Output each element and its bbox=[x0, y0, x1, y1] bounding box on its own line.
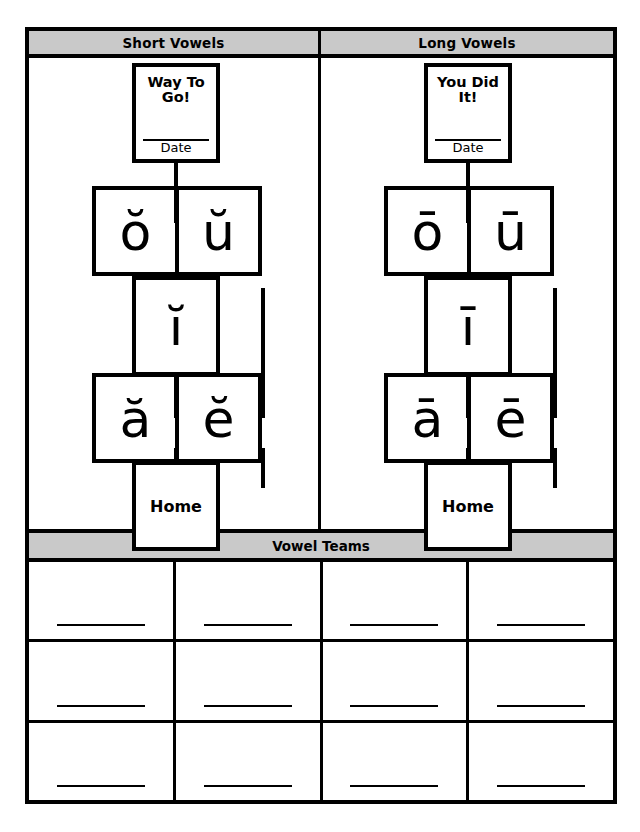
base-short-a: ă bbox=[92, 373, 179, 463]
glyph-short-e: ĕ bbox=[203, 391, 235, 445]
base-short-u: ŭ bbox=[175, 186, 262, 276]
award-title-short-vowels: Way To Go! bbox=[136, 75, 216, 105]
vowel-team-cell[interactable] bbox=[176, 723, 323, 800]
table-row bbox=[29, 642, 613, 722]
third-base-long-i: ī bbox=[424, 276, 512, 376]
award-date-label-short: Date bbox=[160, 141, 191, 155]
panel-header-short-vowels: Short Vowels bbox=[29, 31, 318, 58]
vowel-team-cell[interactable] bbox=[323, 642, 470, 719]
award-date-label-long: Date bbox=[452, 141, 483, 155]
vowel-team-cell[interactable] bbox=[323, 562, 470, 639]
write-line bbox=[350, 624, 438, 626]
diamond-long-vowels: You Did It! Date ō ū ī bbox=[321, 58, 613, 529]
glyph-long-e: ē bbox=[495, 391, 527, 445]
third-base-short-i: ĭ bbox=[132, 276, 220, 376]
glyph-short-i: ĭ bbox=[169, 299, 183, 353]
worksheet-page: Short Vowels Way To Go! Date ŏ bbox=[25, 27, 617, 804]
panel-short-vowels: Short Vowels Way To Go! Date ŏ bbox=[29, 31, 321, 529]
glyph-long-i: ī bbox=[461, 299, 475, 353]
diamond-short-vowels: Way To Go! Date ŏ ŭ ĭ bbox=[29, 58, 318, 529]
stem-home-right bbox=[261, 448, 265, 488]
table-row bbox=[29, 723, 613, 800]
vowel-teams-grid bbox=[29, 562, 613, 800]
write-line bbox=[57, 624, 145, 626]
vowel-teams-header: Vowel Teams bbox=[29, 533, 613, 562]
base-long-u: ū bbox=[467, 186, 554, 276]
base-short-o: ŏ bbox=[92, 186, 179, 276]
vowel-team-cell[interactable] bbox=[469, 642, 613, 719]
vowel-team-cell[interactable] bbox=[176, 642, 323, 719]
stem-second-right-down bbox=[261, 288, 265, 418]
write-line bbox=[57, 785, 145, 787]
home-plate-short: Home bbox=[132, 461, 220, 551]
write-line bbox=[57, 705, 145, 707]
glyph-short-a: ă bbox=[120, 391, 152, 445]
vowel-panels-container: Short Vowels Way To Go! Date ŏ bbox=[29, 31, 613, 529]
glyph-short-o: ŏ bbox=[120, 204, 152, 258]
write-line bbox=[204, 785, 292, 787]
vowel-team-cell[interactable] bbox=[469, 562, 613, 639]
vowel-team-cell[interactable] bbox=[176, 562, 323, 639]
award-box-short-vowels: Way To Go! Date bbox=[132, 63, 220, 163]
base-long-e: ē bbox=[467, 373, 554, 463]
glyph-long-u: ū bbox=[494, 204, 527, 258]
write-line bbox=[350, 785, 438, 787]
stem-award-to-second-long bbox=[466, 153, 470, 223]
award-box-long-vowels: You Did It! Date bbox=[424, 63, 512, 163]
write-line bbox=[204, 705, 292, 707]
write-line bbox=[497, 705, 585, 707]
home-plate-long: Home bbox=[424, 461, 512, 551]
table-row bbox=[29, 562, 613, 642]
stem-home-right-long bbox=[553, 448, 557, 488]
vowel-team-cell[interactable] bbox=[323, 723, 470, 800]
glyph-long-o: ō bbox=[412, 204, 444, 258]
panel-header-long-vowels: Long Vowels bbox=[321, 31, 613, 58]
vowel-team-cell[interactable] bbox=[29, 642, 176, 719]
write-line bbox=[350, 705, 438, 707]
base-long-o: ō bbox=[384, 186, 471, 276]
vowel-team-cell[interactable] bbox=[29, 562, 176, 639]
vowel-team-cell[interactable] bbox=[29, 723, 176, 800]
write-line bbox=[497, 624, 585, 626]
write-line bbox=[204, 624, 292, 626]
base-long-a: ā bbox=[384, 373, 471, 463]
stem-second-right-down-long bbox=[553, 288, 557, 418]
vowel-teams-section: Vowel Teams bbox=[29, 529, 613, 800]
base-short-e: ĕ bbox=[175, 373, 262, 463]
panel-long-vowels: Long Vowels You Did It! Date ō bbox=[321, 31, 613, 529]
stem-award-to-second bbox=[174, 153, 178, 223]
glyph-long-a: ā bbox=[412, 391, 444, 445]
glyph-short-u: ŭ bbox=[202, 204, 235, 258]
write-line bbox=[497, 785, 585, 787]
vowel-team-cell[interactable] bbox=[469, 723, 613, 800]
award-title-long-vowels: You Did It! bbox=[428, 75, 508, 105]
